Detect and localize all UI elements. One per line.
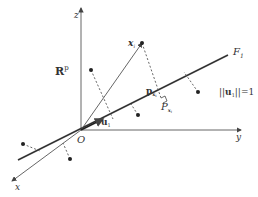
projection-point-label: Pxi	[160, 101, 173, 114]
data-points	[21, 41, 200, 161]
line-label-f1: F1	[232, 46, 244, 59]
norm-constraint-label: ||u1||=1	[219, 87, 254, 98]
z-axis-label: z	[73, 10, 79, 20]
projection-lines	[23, 43, 198, 159]
projection-diagram: z y x Rp O F1 u1 xi pxi Pxi ||u1||=1	[0, 0, 258, 197]
unit-vector-label: u1	[101, 117, 111, 128]
space-label: Rp	[55, 64, 69, 78]
x-axis-label: x	[15, 182, 20, 192]
unit-vector-u1	[81, 119, 103, 130]
y-axis-label: y	[235, 132, 242, 142]
point-vector-xi	[81, 43, 142, 130]
origin-label: O	[77, 134, 85, 145]
point-label-xi: xi	[127, 38, 135, 49]
point-xi	[140, 41, 144, 45]
x-axis	[12, 130, 81, 181]
